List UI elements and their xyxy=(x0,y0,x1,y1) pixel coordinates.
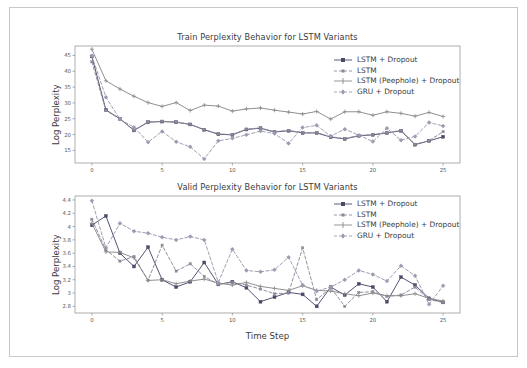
valid-xtick-label: 15 xyxy=(293,317,313,323)
train-data-point xyxy=(258,106,262,110)
legend-item-lstm-peephole-dropout[interactable]: LSTM (Peephole) + Dropout xyxy=(333,76,456,87)
figure-page: Train Perplexity Behavior for LSTM Varia… xyxy=(0,0,527,368)
valid-data-point xyxy=(189,263,191,265)
train-data-point xyxy=(371,113,375,117)
valid-data-point xyxy=(413,274,417,278)
valid-data-point xyxy=(287,255,291,259)
legend-line-sample-2 xyxy=(333,76,353,86)
train-data-point xyxy=(259,127,261,129)
valid-data-point xyxy=(202,277,206,281)
valid-data-point xyxy=(399,276,402,279)
valid-xtick-label: 10 xyxy=(222,317,242,323)
valid-data-point xyxy=(301,247,303,249)
valid-data-point xyxy=(104,214,107,217)
train-data-point xyxy=(160,104,164,108)
train-data-point xyxy=(90,47,94,51)
legend-line-sample-0 xyxy=(333,55,353,65)
legend-label-v3: GRU + Dropout xyxy=(357,231,414,241)
legend-item-lstm-dropout[interactable]: LSTM + Dropout xyxy=(333,55,456,66)
legend-label-1: LSTM xyxy=(357,66,377,76)
valid-data-point xyxy=(414,286,416,288)
train-data-point xyxy=(372,133,374,135)
valid-xtick-label: 25 xyxy=(433,317,453,323)
train-data-point xyxy=(91,61,93,63)
train-data-point xyxy=(343,110,347,114)
valid-data-point xyxy=(188,235,192,239)
train-xtick-label: 0 xyxy=(82,167,102,173)
legend-label-0: LSTM + Dropout xyxy=(357,55,417,65)
train-data-point xyxy=(315,109,319,113)
valid-data-point xyxy=(385,300,388,303)
legend-label-v1: LSTM xyxy=(357,210,377,220)
valid-chart-title: Valid Perplexity Behavior for LSTM Varia… xyxy=(75,182,460,192)
valid-data-point xyxy=(357,282,360,285)
train-data-point xyxy=(442,135,445,138)
valid-data-point xyxy=(413,292,417,296)
train-data-point xyxy=(386,131,388,133)
train-data-point xyxy=(413,114,417,118)
train-data-point xyxy=(427,110,431,114)
train-data-point xyxy=(244,133,248,137)
legend-label-v2: LSTM (Peephole) + Dropout xyxy=(357,220,459,230)
train-ytick-label: 40 xyxy=(51,68,71,74)
train-xtick-label: 15 xyxy=(293,167,313,173)
valid-data-point xyxy=(344,305,346,307)
valid-data-point xyxy=(301,293,304,296)
valid-data-point xyxy=(272,286,276,290)
train-data-point xyxy=(202,103,206,107)
valid-data-point xyxy=(160,235,164,239)
train-data-point xyxy=(147,121,149,123)
train-data-point xyxy=(316,131,318,133)
valid-data-point xyxy=(119,260,121,262)
train-ytick-label: 20 xyxy=(51,132,71,138)
legend-item-gru-dropout[interactable]: GRU + Dropout xyxy=(333,87,456,98)
valid-data-point xyxy=(161,244,163,246)
train-data-point xyxy=(118,87,122,91)
train-xtick-label: 20 xyxy=(363,167,383,173)
valid-data-point xyxy=(343,278,347,282)
valid-ytick-label: 3.4 xyxy=(51,263,71,269)
train-data-point xyxy=(244,107,248,111)
valid-ytick-label: 2.8 xyxy=(51,303,71,309)
valid-data-point xyxy=(316,299,318,301)
valid-data-point xyxy=(147,246,150,249)
train-data-point xyxy=(286,110,290,114)
legend-item-lstm-dropout-valid[interactable]: LSTM + Dropout xyxy=(333,199,456,210)
train-ytick-label: 30 xyxy=(51,100,71,106)
train-data-point xyxy=(230,109,234,113)
train-legend[interactable]: LSTM + Dropout LSTM LSTM (Peephole) + Dr… xyxy=(330,53,459,99)
train-data-point xyxy=(343,127,347,131)
train-xtick-label: 25 xyxy=(433,167,453,173)
valid-data-point xyxy=(315,305,318,308)
legend-item-lstm-peephole-dropout-valid[interactable]: LSTM (Peephole) + Dropout xyxy=(333,220,456,231)
legend-item-lstm[interactable]: LSTM xyxy=(333,66,456,77)
valid-ytick-label: 4.2 xyxy=(51,210,71,216)
train-data-point xyxy=(399,111,403,115)
valid-xtick-label: 20 xyxy=(363,317,383,323)
legend-item-gru-dropout-valid[interactable]: GRU + Dropout xyxy=(333,231,456,242)
train-ytick-label: 15 xyxy=(51,147,71,153)
train-data-point xyxy=(287,129,289,131)
valid-data-point xyxy=(258,284,262,288)
legend-line-sample-v3 xyxy=(333,231,353,241)
train-data-point xyxy=(400,129,402,131)
train-xtick-label: 10 xyxy=(222,167,242,173)
legend-label-2: LSTM (Peephole) + Dropout xyxy=(357,76,459,86)
legend-item-lstm-valid[interactable]: LSTM xyxy=(333,210,456,221)
valid-data-point xyxy=(385,294,389,298)
valid-data-point xyxy=(244,280,248,284)
valid-data-point xyxy=(273,293,275,295)
valid-data-point xyxy=(259,300,262,303)
valid-data-point xyxy=(202,238,206,242)
train-data-point xyxy=(329,117,333,121)
train-data-point xyxy=(301,112,305,116)
train-data-point xyxy=(203,128,205,130)
valid-legend[interactable]: LSTM + Dropout LSTM LSTM (Peephole) + Dr… xyxy=(330,197,459,243)
legend-line-sample-v2 xyxy=(333,220,353,230)
train-xtick-label: 5 xyxy=(152,167,172,173)
valid-data-point xyxy=(104,250,108,254)
train-ytick-label: 35 xyxy=(51,84,71,90)
valid-data-point xyxy=(203,261,206,264)
train-data-point xyxy=(217,133,219,135)
train-data-point xyxy=(272,108,276,112)
